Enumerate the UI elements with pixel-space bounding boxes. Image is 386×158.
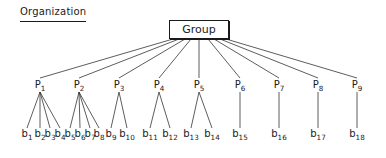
process-node-p8: P8 — [313, 79, 324, 93]
leaf-node-b1: b1 — [22, 128, 33, 142]
edge-p1-to-b1 — [27, 92, 40, 128]
edge-p1-to-b4 — [40, 92, 60, 128]
edge-group-to-p1 — [40, 39, 173, 78]
leaf-node-b14-subscript: 14 — [211, 133, 221, 142]
group-node: Group — [169, 20, 229, 39]
process-node-p6-subscript: 6 — [241, 84, 246, 93]
edge-p1-to-b3 — [40, 92, 50, 128]
process-node-p2-subscript: 2 — [80, 84, 85, 93]
leaf-node-b12-subscript: 12 — [169, 133, 178, 142]
leaf-node-b18-subscript: 18 — [356, 133, 366, 142]
leaf-node-b11-subscript: 11 — [149, 133, 158, 142]
edge-p2-to-b6 — [79, 92, 80, 128]
leaf-node-b10: b10 — [119, 128, 135, 142]
edge-p5-to-b13 — [191, 92, 199, 128]
edge-p3-to-b9 — [111, 92, 119, 128]
leaf-node-b15: b15 — [232, 128, 248, 142]
process-node-p1-subscript: 1 — [41, 84, 46, 93]
leaf-node-b16-subscript: 16 — [278, 133, 288, 142]
edge-p5-to-b14 — [199, 92, 212, 128]
process-node-p3: P3 — [114, 79, 125, 93]
process-node-p9: P9 — [352, 79, 363, 93]
edge-group-to-p9 — [226, 39, 357, 78]
leaf-node-b12: b12 — [162, 128, 178, 142]
leaf-node-b9: b9 — [106, 128, 117, 142]
leaf-node-b11: b11 — [142, 128, 158, 142]
process-node-p9-subscript: 9 — [358, 84, 363, 93]
process-node-p5-subscript: 5 — [200, 84, 205, 93]
process-node-p6: P6 — [235, 79, 246, 93]
leaf-node-b17: b17 — [310, 128, 326, 142]
process-node-p4: P4 — [154, 79, 165, 93]
leaf-node-b15-subscript: 15 — [239, 133, 248, 142]
edge-p2-to-b8 — [79, 92, 99, 128]
leaf-node-b17-subscript: 17 — [317, 133, 326, 142]
process-node-p3-subscript: 3 — [120, 84, 125, 93]
edge-p2-to-b5 — [70, 92, 79, 128]
leaf-node-b13: b13 — [183, 128, 199, 142]
process-node-p2: P2 — [74, 79, 85, 93]
leaf-node-b16: b16 — [271, 128, 287, 142]
process-node-p7-subscript: 7 — [280, 84, 285, 93]
leaf-node-b10-subscript: 10 — [126, 133, 136, 142]
leaf-node-b9-subscript: 9 — [112, 133, 117, 142]
edge-p2-to-b7 — [79, 92, 90, 128]
edge-p4-to-b12 — [159, 92, 170, 128]
process-node-p1: P1 — [35, 79, 46, 93]
leaf-node-b1-subscript: 1 — [28, 133, 33, 142]
edge-p3-to-b10 — [119, 92, 127, 128]
process-node-p4-subscript: 4 — [160, 84, 165, 93]
leaf-node-b8-subscript: 8 — [100, 133, 105, 142]
leaf-node-b14: b14 — [204, 128, 220, 142]
edge-p4-to-b11 — [150, 92, 159, 128]
process-node-p7: P7 — [274, 79, 285, 93]
group-label: Group — [182, 23, 216, 36]
process-node-p5: P5 — [194, 79, 205, 93]
leaf-node-b13-subscript: 13 — [190, 133, 199, 142]
leaf-node-b18: b18 — [349, 128, 365, 142]
process-node-p8-subscript: 8 — [319, 84, 324, 93]
